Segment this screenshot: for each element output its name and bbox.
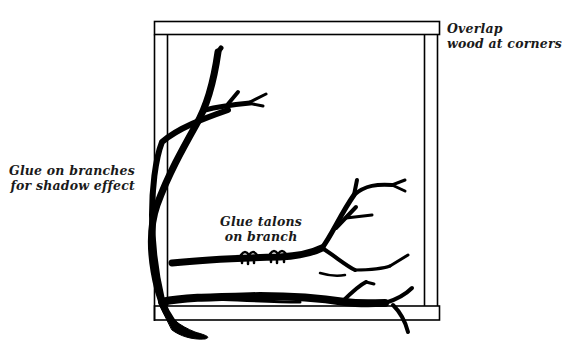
frame-top-board xyxy=(155,22,440,35)
label-glue-talons-line2: on branch xyxy=(220,229,302,244)
illustration-canvas: Overlap wood at corners Glue on branches… xyxy=(0,0,575,359)
label-glue-branches-line2: for shadow effect xyxy=(9,178,135,193)
label-overlap-wood: Overlap wood at corners xyxy=(447,21,562,51)
label-glue-talons: Glue talons on branch xyxy=(220,214,302,244)
wooden-frame xyxy=(155,22,440,322)
bottom-branch xyxy=(162,273,412,332)
label-glue-branches-line1: Glue on branches xyxy=(9,163,135,178)
label-overlap-line2: wood at corners xyxy=(447,36,562,51)
label-glue-branches: Glue on branches for shadow effect xyxy=(9,163,135,193)
label-glue-talons-line1: Glue talons xyxy=(220,214,302,229)
label-overlap-line1: Overlap xyxy=(447,21,562,36)
